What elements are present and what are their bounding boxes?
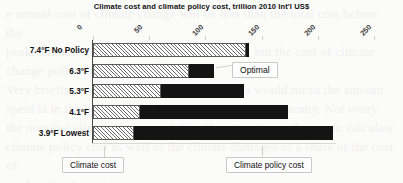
- bar-segment-climate-cost-0: [93, 43, 246, 57]
- x-axis-tick-labels: 0 50 100 150 200 250: [0, 16, 403, 38]
- bar-segment-climate-cost-1: [93, 64, 189, 78]
- x-axis-baseline: [92, 143, 336, 144]
- bar-segment-policy-cost-0: [246, 43, 249, 57]
- bar-segment-climate-cost-4: [93, 126, 134, 140]
- x-tick-label-2: 100: [190, 23, 205, 38]
- x-tick-label-5: 250: [358, 23, 373, 38]
- bar-row: 6.3°F: [0, 61, 403, 82]
- chart-container: Climate cost and climate policy cost, tr…: [0, 0, 403, 183]
- bar-row: 4.1°F: [0, 102, 403, 123]
- category-label-0: 7.4°F No Policy: [0, 46, 89, 55]
- category-label-2: 5.3°F: [0, 87, 89, 96]
- bar-segment-policy-cost-3: [140, 105, 287, 119]
- chart-title: Climate cost and climate policy cost, tr…: [0, 2, 403, 11]
- x-tick-label-1: 50: [132, 23, 144, 35]
- bar-segment-climate-cost-3: [93, 105, 140, 119]
- stacked-bar-2: [93, 84, 244, 98]
- category-label-4: 3.9°F Lowest: [0, 128, 89, 137]
- category-label-3: 4.1°F: [0, 108, 89, 117]
- stacked-bar-0: [93, 43, 249, 57]
- category-label-1: 6.3°F: [0, 66, 89, 75]
- bar-row: 7.4°F No Policy: [0, 40, 403, 61]
- bar-rows: 7.4°F No Policy 6.3°F 5.3°F 4.1°F: [0, 40, 403, 143]
- bar-segment-policy-cost-2: [161, 84, 244, 98]
- legend-item-policy-cost: Climate policy cost: [226, 157, 312, 173]
- x-tick-label-4: 200: [302, 23, 317, 38]
- x-tick-label-0: 0: [75, 23, 84, 32]
- bar-segment-policy-cost-4: [134, 126, 333, 140]
- bar-segment-policy-cost-1: [189, 64, 215, 78]
- bar-row: 5.3°F: [0, 81, 403, 102]
- stacked-bar-3: [93, 105, 288, 119]
- stacked-bar-1: [93, 64, 214, 78]
- annotation-optimal: Optimal: [232, 62, 278, 78]
- legend-item-climate-cost: Climate cost: [62, 157, 124, 173]
- bar-segment-climate-cost-2: [93, 84, 161, 98]
- x-tick-label-3: 150: [246, 23, 261, 38]
- stacked-bar-4: [93, 126, 333, 140]
- bar-row: 3.9°F Lowest: [0, 122, 403, 143]
